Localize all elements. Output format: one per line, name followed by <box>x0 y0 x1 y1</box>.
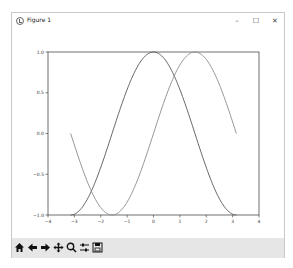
y-tick-label: 0.0 <box>37 131 44 136</box>
x-tick-label: 0 <box>152 219 155 224</box>
back-button[interactable] <box>26 241 38 254</box>
arrow-right-icon <box>40 242 51 253</box>
y-tick-label: −1.0 <box>33 213 44 218</box>
save-button[interactable] <box>91 241 103 254</box>
home-icon <box>14 242 25 253</box>
x-tick-label: −3 <box>71 219 78 224</box>
navigation-toolbar <box>12 238 284 258</box>
plot-canvas[interactable]: −4−3−2−101234−1.0−0.50.00.51.0 <box>12 13 284 238</box>
x-tick-label: 3 <box>231 219 234 224</box>
x-tick-label: 1 <box>178 219 181 224</box>
zoom-button[interactable] <box>65 241 77 254</box>
y-tick-label: 1.0 <box>37 50 44 55</box>
y-tick-label: 0.5 <box>37 90 44 95</box>
configure-subplots-button[interactable] <box>78 241 90 254</box>
move-icon <box>53 242 64 253</box>
home-button[interactable] <box>13 241 25 254</box>
x-tick-label: −1 <box>124 219 131 224</box>
sliders-icon <box>79 242 90 253</box>
x-tick-label: −2 <box>97 219 104 224</box>
arrow-left-icon <box>27 242 38 253</box>
floppy-icon <box>92 242 103 253</box>
x-tick-label: −4 <box>45 219 52 224</box>
y-tick-label: −0.5 <box>33 172 44 177</box>
magnifier-icon <box>66 242 77 253</box>
figure-window: Figure 1 – ☐ ✕ −4−3−2−101234−1.0−0.50.00… <box>11 12 285 258</box>
x-tick-label: 4 <box>258 219 261 224</box>
pan-button[interactable] <box>52 241 64 254</box>
forward-button[interactable] <box>39 241 51 254</box>
x-tick-label: 2 <box>205 219 208 224</box>
